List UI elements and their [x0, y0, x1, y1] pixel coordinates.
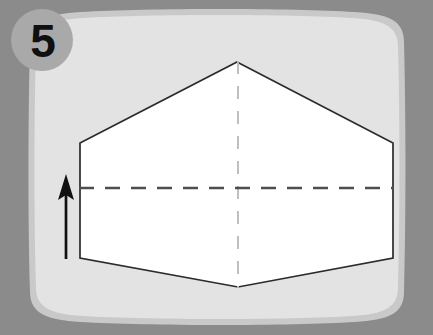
step-number-label: 5: [30, 15, 56, 67]
origami-step-diagram: 5: [0, 0, 433, 335]
diagram-canvas: 5: [0, 0, 433, 335]
